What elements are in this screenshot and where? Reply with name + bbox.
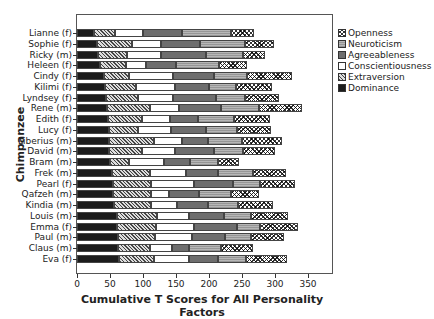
bar-segment-agreeableness — [186, 169, 218, 177]
bar-segment-extraversion — [112, 169, 150, 177]
bar-segment-openness — [218, 158, 239, 166]
bar-row — [77, 137, 282, 145]
bar-segment-extraversion — [105, 83, 135, 91]
legend-swatch-icon — [338, 84, 346, 92]
x-tick-label: 0 — [62, 279, 92, 289]
bar-segment-extraversion — [107, 104, 149, 112]
bar-segment-neuroticism — [208, 137, 242, 145]
bar-segment-agreeableness — [170, 115, 198, 123]
bar-row — [77, 126, 271, 134]
category-label: Kilimi (f) — [0, 82, 72, 92]
bar-segment-extraversion — [108, 115, 142, 123]
bar-segment-dominance — [77, 104, 107, 112]
bar-segment-extraversion — [114, 201, 151, 209]
bar-segment-dominance — [77, 169, 112, 177]
bar-segment-conscientiousness — [150, 104, 180, 112]
bar-row — [77, 233, 284, 241]
bar-segment-neuroticism — [224, 212, 251, 220]
bar-segment-openness — [247, 72, 293, 80]
bar-segment-neuroticism — [189, 244, 221, 252]
bar-segment-openness — [245, 94, 279, 102]
category-label: Liberius (m) — [0, 136, 72, 146]
category-label: Claus (m) — [0, 243, 72, 253]
bar-segment-neuroticism — [199, 190, 231, 198]
bar-row — [77, 51, 265, 59]
category-label: Cindy (f) — [0, 71, 72, 81]
bar-segment-extraversion — [113, 180, 151, 188]
bar-segment-extraversion — [109, 137, 155, 145]
bar-segment-dominance — [77, 244, 118, 252]
bar-segment-conscientiousness — [154, 255, 189, 263]
category-label: Kindia (m) — [0, 200, 72, 210]
bar-row — [77, 115, 270, 123]
category-label: Edith (f) — [0, 114, 72, 124]
x-tick-label: 350 — [293, 279, 323, 289]
category-label: Louis (m) — [0, 211, 72, 221]
x-tick — [209, 274, 210, 278]
bar-segment-conscientiousness — [151, 180, 194, 188]
bar-segment-extraversion — [118, 233, 155, 241]
category-label: Pearl (f) — [0, 179, 72, 189]
bar-segment-agreeableness — [175, 83, 209, 91]
x-tick — [143, 274, 144, 278]
bar-segment-dominance — [77, 115, 108, 123]
bar-segment-openness — [221, 244, 253, 252]
bar-segment-neuroticism — [176, 61, 219, 69]
category-label: Lyndsey (f) — [0, 93, 72, 103]
bar-segment-conscientiousness — [129, 72, 173, 80]
bar-segment-openness — [245, 40, 274, 48]
bar-row — [77, 61, 247, 69]
category-label: David (m) — [0, 146, 72, 156]
bar-segment-extraversion — [104, 72, 129, 80]
bar-segment-extraversion — [119, 255, 153, 263]
bar-segment-agreeableness — [179, 104, 221, 112]
bar-segment-dominance — [77, 223, 117, 231]
x-tick-label: 200 — [194, 279, 224, 289]
bar-segment-dominance — [77, 40, 97, 48]
category-label: Ricky (m) — [0, 50, 72, 60]
legend-item-dominance: Dominance — [338, 83, 431, 93]
x-tick — [242, 274, 243, 278]
bar-segment-dominance — [77, 126, 109, 134]
bar-row — [77, 72, 292, 80]
legend-item-conscientiousness: Conscientiousness — [338, 61, 431, 71]
bar-segment-dominance — [77, 137, 109, 145]
category-label: Frek (m) — [0, 168, 72, 178]
bar-row — [77, 201, 273, 209]
bar-segment-extraversion — [94, 29, 115, 37]
bar-segment-extraversion — [100, 61, 126, 69]
bar-row — [77, 190, 259, 198]
bar-segment-openness — [253, 169, 287, 177]
legend-label: Extraversion — [348, 72, 405, 82]
bar-segment-dominance — [77, 61, 100, 69]
bar-segment-openness — [237, 126, 271, 134]
category-label: Rene (m) — [0, 103, 72, 113]
bar-segment-openness — [236, 83, 272, 91]
bar-segment-agreeableness — [173, 72, 214, 80]
x-tick-label: 250 — [227, 279, 257, 289]
legend-label: Neuroticism — [348, 39, 402, 49]
bar-segment-agreeableness — [172, 244, 189, 252]
x-tick-label: 300 — [260, 279, 290, 289]
bar-segment-agreeableness — [194, 223, 237, 231]
category-label: Lianne (f) — [0, 28, 72, 38]
x-tick — [110, 274, 111, 278]
bar-segment-dominance — [77, 72, 104, 80]
bar-segment-openness — [243, 147, 275, 155]
bar-segment-neuroticism — [214, 72, 246, 80]
x-axis-label: Cumulative T Scores for All Personality … — [77, 293, 327, 319]
x-tick — [77, 274, 78, 278]
legend-swatch-icon — [338, 29, 346, 37]
bar-segment-conscientiousness — [136, 83, 175, 91]
bar-segment-agreeableness — [143, 29, 182, 37]
bar-segment-dominance — [77, 255, 119, 263]
bar-segment-neuroticism — [198, 115, 234, 123]
x-tick — [275, 274, 276, 278]
legend-label: Conscientiousness — [348, 61, 431, 71]
bar-segment-extraversion — [109, 147, 141, 155]
bar-segment-openness — [238, 201, 273, 209]
bar-segment-neuroticism — [225, 233, 250, 241]
bar-segment-conscientiousness — [115, 29, 143, 37]
category-label: Emma (f) — [0, 222, 72, 232]
